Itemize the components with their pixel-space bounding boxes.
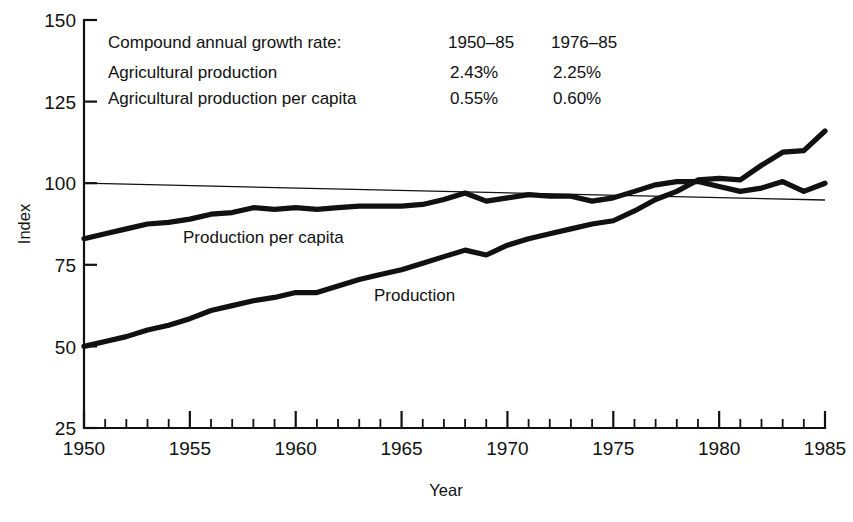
note-row-1-label: Agricultural production [108,63,277,82]
agricultural-production-chart: 150 125 100 75 50 25 Index 1950195519601… [0,0,853,522]
y-tick-label-150: 150 [44,10,76,31]
y-axis-title: Index [15,203,33,244]
y-tick-label-25: 25 [55,418,76,439]
x-tick-label-1955: 1955 [169,438,211,459]
note-column-header-1: 1950–85 [448,33,514,52]
note-heading: Compound annual growth rate: [108,33,341,52]
note-row-1-value-1: 2.43% [450,63,498,82]
x-tick-label-1960: 1960 [275,438,317,459]
y-tick-label-125: 125 [44,92,76,113]
x-tick-label-1985: 1985 [804,438,846,459]
note-column-header-2: 1976–85 [551,33,617,52]
x-tick-label-1970: 1970 [486,438,528,459]
note-row-2-value-1: 0.55% [450,89,498,108]
note-row-2-label: Agricultural production per capita [108,89,357,108]
y-tick-label-75: 75 [55,255,76,276]
x-tick-label-1965: 1965 [380,438,422,459]
series-label-production-per-capita: Production per capita [183,228,344,247]
y-tick-label-100: 100 [44,173,76,194]
note-row-2-value-2: 0.60% [553,89,601,108]
x-axis-title: Year [429,481,463,499]
x-tick-label-1950: 1950 [63,438,105,459]
note-row-1-value-2: 2.25% [553,63,601,82]
series-label-production: Production [374,286,455,305]
x-tick-label-1980: 1980 [698,438,740,459]
y-tick-label-50: 50 [55,337,76,358]
x-tick-label-1975: 1975 [592,438,634,459]
